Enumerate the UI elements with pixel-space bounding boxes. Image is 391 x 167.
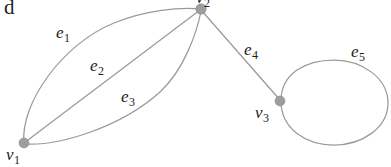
edge-label-e2-subscript: 2 <box>98 64 104 78</box>
edge-label-e4-base: e <box>244 40 252 59</box>
figure-container: d e1 e2 e3 e4 e5 v1 v2 v3 <box>0 0 391 167</box>
vertex-label-v2: v2 <box>196 0 210 9</box>
edge-e5-self-loop-path <box>281 60 388 145</box>
edge-e3-path <box>25 11 201 144</box>
edge-label-e2-base: e <box>90 56 98 75</box>
edge-label-e1: e1 <box>56 24 70 44</box>
edge-label-e5: e5 <box>351 43 365 63</box>
edge-label-e3-subscript: 3 <box>129 95 135 109</box>
vertex-label-v3-subscript: 3 <box>263 111 269 125</box>
vertex-label-v3: v3 <box>255 104 269 124</box>
vertex-label-v2-base: v <box>196 0 204 7</box>
edge-label-e1-subscript: 1 <box>64 31 70 45</box>
edge-label-e1-base: e <box>56 23 64 42</box>
edge-label-e5-base: e <box>351 42 359 61</box>
edge-label-e2: e2 <box>90 57 104 77</box>
vertex-v3-dot <box>275 96 285 106</box>
edge-label-e4-subscript: 4 <box>252 48 258 62</box>
vertex-label-v3-base: v <box>255 103 263 122</box>
vertex-v1-dot <box>19 138 29 148</box>
edge-label-e4: e4 <box>244 41 258 61</box>
vertex-label-v1-subscript: 1 <box>14 153 20 167</box>
panel-letter-d: d <box>4 0 15 18</box>
edge-label-e3: e3 <box>121 88 135 108</box>
edge-e4-path <box>202 11 280 100</box>
vertex-label-v2-subscript: 2 <box>204 0 210 10</box>
edge-label-e5-subscript: 5 <box>359 50 365 64</box>
vertex-label-v1-base: v <box>6 145 14 164</box>
edge-label-e3-base: e <box>121 87 129 106</box>
vertex-label-v1: v1 <box>6 146 20 166</box>
